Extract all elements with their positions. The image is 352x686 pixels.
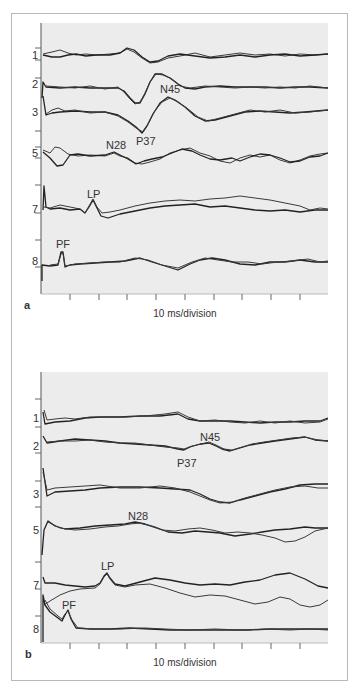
x-axis-caption: 10 ms/division [85,657,285,668]
panel-letter: b [25,648,32,660]
channel-label: 5 [33,524,39,536]
channel-label: 1 [33,412,39,424]
peak-label-n28: N28 [128,510,148,522]
panel-b: 1 2 3 5 7 8 N45 P37 N28 LP PF b 10 ms/di… [0,0,352,686]
channel-labels: 1 2 3 5 7 8 [33,412,39,635]
peak-label-p37: P37 [177,457,197,469]
peak-label-n45: N45 [200,431,220,443]
peak-label-lp: LP [101,560,114,572]
channel-label: 3 [33,488,39,500]
channel-label: 7 [33,579,39,591]
channel-label: 2 [33,440,39,452]
peak-label-pf: PF [62,599,76,611]
channel-label: 8 [33,623,39,635]
x-ticks [70,643,300,649]
panel-b-plot: 1 2 3 5 7 8 N45 P37 N28 LP PF [0,0,352,686]
plot-area [41,372,328,643]
